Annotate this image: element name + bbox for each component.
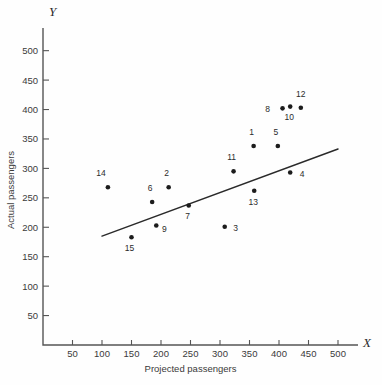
- data-point-3: [222, 224, 227, 229]
- data-points: 141596273111315810124: [96, 89, 306, 254]
- x-tick-label: 400: [271, 348, 287, 359]
- plot-svg: 5010015020025030035040045050050100150200…: [0, 0, 382, 385]
- scatter-chart: 5010015020025030035040045050050100150200…: [0, 0, 382, 385]
- y-tick-label: 250: [22, 192, 38, 203]
- x-tick-label: 50: [67, 348, 78, 359]
- data-point-12: [299, 105, 304, 110]
- x-tick-label: 250: [183, 348, 199, 359]
- data-point-4: [288, 170, 293, 175]
- y-tick-label: 350: [22, 133, 38, 144]
- axes: [43, 28, 358, 345]
- y-tick-label: 200: [22, 222, 38, 233]
- data-point-label-1: 1: [249, 127, 254, 137]
- data-point-label-15: 15: [125, 243, 135, 253]
- data-point-5: [276, 144, 281, 149]
- axis-titles: YXProjected passengersActual passengers: [5, 4, 372, 374]
- axis-lines: [43, 28, 358, 345]
- data-point-label-12: 12: [296, 89, 306, 99]
- x-axis-title: Projected passengers: [145, 363, 237, 374]
- y-tick-label: 50: [27, 310, 38, 321]
- data-point-label-9: 9: [162, 224, 167, 234]
- x-tick-label: 450: [301, 348, 317, 359]
- y-tick-label: 150: [22, 251, 38, 262]
- data-point-label-11: 11: [227, 152, 236, 162]
- data-point-14: [106, 185, 111, 190]
- data-point-label-4: 4: [300, 169, 305, 179]
- data-point-8: [280, 106, 285, 111]
- data-point-label-3: 3: [233, 223, 238, 233]
- data-point-15: [129, 235, 134, 240]
- y-tick-label: 450: [22, 75, 38, 86]
- y-tick-label: 100: [22, 281, 38, 292]
- y-axis-letter: Y: [49, 4, 58, 19]
- x-tick-label: 150: [124, 348, 140, 359]
- y-tick-label: 400: [22, 104, 38, 115]
- data-point-13: [252, 188, 257, 193]
- data-point-label-10: 10: [284, 112, 294, 122]
- data-point-label-13: 13: [248, 197, 258, 207]
- data-point-10: [288, 104, 293, 109]
- y-tick-label: 300: [22, 163, 38, 174]
- y-tick-label: 500: [22, 45, 38, 56]
- data-point-2: [166, 185, 171, 190]
- y-axis-title: Actual passengers: [5, 151, 16, 229]
- axis-ticks: [43, 51, 338, 345]
- data-point-label-8: 8: [265, 104, 270, 114]
- data-point-11: [231, 169, 236, 174]
- x-tick-label: 350: [242, 348, 258, 359]
- data-point-7: [186, 203, 191, 208]
- data-point-label-14: 14: [96, 168, 106, 178]
- regression-line: [102, 149, 338, 236]
- x-tick-label: 100: [94, 348, 110, 359]
- data-point-6: [150, 200, 155, 205]
- x-axis-letter: X: [362, 335, 372, 350]
- x-tick-label: 200: [153, 348, 169, 359]
- data-point-label-6: 6: [148, 183, 153, 193]
- x-tick-label: 300: [212, 348, 228, 359]
- data-point-label-5: 5: [273, 127, 278, 137]
- regression-line-segment: [102, 149, 338, 236]
- data-point-label-2: 2: [164, 168, 169, 178]
- data-point-1: [251, 144, 256, 149]
- data-point-label-7: 7: [185, 211, 190, 221]
- data-point-9: [154, 223, 159, 228]
- x-tick-label: 500: [330, 348, 346, 359]
